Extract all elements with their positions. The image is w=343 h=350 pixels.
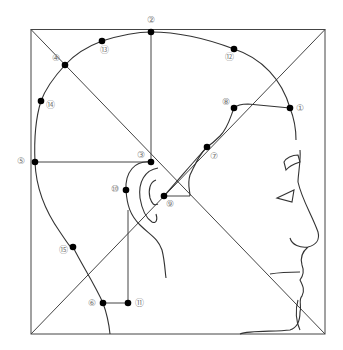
point-8	[231, 105, 238, 112]
point-label-4: ④	[52, 53, 60, 63]
point-label-11: ⑪	[135, 298, 144, 308]
point-11	[125, 300, 132, 307]
face-profile	[240, 150, 319, 334]
head-outline	[35, 32, 290, 334]
point-label-10: ⑩	[111, 184, 119, 194]
eye	[277, 190, 294, 202]
head-measurement-diagram: ①②③④⑤⑥⑦⑧⑨⑩⑪⑫⑬⑭⑮	[0, 0, 343, 350]
point-label-9: ⑨	[166, 199, 174, 209]
point-10	[123, 187, 130, 194]
ear-outer	[126, 162, 166, 278]
point-label-8: ⑧	[222, 97, 230, 107]
point-3	[148, 159, 155, 166]
point-6	[100, 300, 107, 307]
lips	[270, 272, 300, 274]
point-7	[204, 144, 211, 151]
point-label-14: ⑭	[46, 100, 55, 110]
point-1	[287, 105, 294, 112]
ear-canal	[149, 180, 158, 205]
point-label-7: ⑦	[210, 151, 218, 161]
point-4	[62, 62, 69, 69]
point-label-12: ⑫	[225, 52, 234, 62]
ear-inner	[140, 168, 158, 223]
point-label-2: ②	[147, 15, 155, 25]
point-13	[99, 38, 106, 45]
point-label-5: ⑤	[17, 156, 25, 166]
point-label-3: ③	[137, 150, 145, 160]
point-5	[32, 159, 39, 166]
diagram-canvas: ①②③④⑤⑥⑦⑧⑨⑩⑪⑫⑬⑭⑮	[0, 0, 343, 350]
point-2	[148, 29, 155, 36]
point-15	[70, 244, 77, 251]
line-7-to-9	[164, 147, 207, 196]
point-label-13: ⑬	[100, 45, 109, 55]
point-14	[38, 98, 45, 105]
point-label-15: ⑮	[59, 245, 68, 255]
point-label-1: ①	[296, 103, 304, 113]
point-label-6: ⑥	[88, 298, 96, 308]
eyebrow	[284, 155, 300, 170]
